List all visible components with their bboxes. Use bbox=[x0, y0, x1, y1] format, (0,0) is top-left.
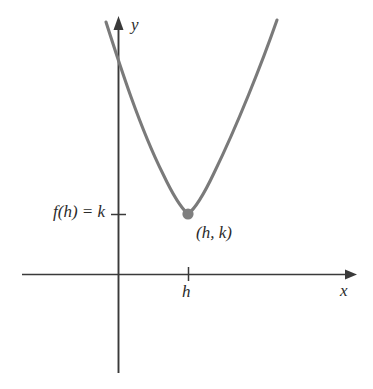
vertex-coordinate-label: (h, k) bbox=[196, 224, 232, 241]
parabola-figure: y x h f(h) = k (h, k) bbox=[0, 0, 373, 389]
vertex-point bbox=[182, 208, 193, 219]
parabola-curve bbox=[106, 20, 277, 214]
y-axis-arrowhead bbox=[114, 16, 124, 30]
graph-canvas bbox=[0, 0, 373, 389]
y-axis-label: y bbox=[131, 16, 139, 33]
x-axis-label: x bbox=[340, 282, 348, 299]
y-axis-tick-label-fh-equals-k: f(h) = k bbox=[53, 203, 105, 220]
x-axis-tick-label-h: h bbox=[182, 283, 191, 300]
x-axis-arrowhead bbox=[345, 270, 357, 280]
